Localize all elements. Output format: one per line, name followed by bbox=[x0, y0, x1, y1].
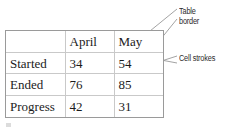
figure-canvas: April May Started 34 54 Ended 76 85 Prog… bbox=[0, 0, 234, 128]
table-row: Ended 76 85 bbox=[6, 74, 163, 96]
cell-ended-may: 85 bbox=[114, 74, 163, 96]
callout-cell-strokes: Cell strokes bbox=[179, 53, 215, 63]
callout-cell-strokes-label: Cell strokes bbox=[179, 53, 215, 63]
leader-line-table-border-top bbox=[150, 9, 177, 31]
row-label-progress: Progress bbox=[6, 96, 65, 117]
callout-table-border: Table border bbox=[179, 6, 199, 26]
table-header-row: April May bbox=[6, 31, 163, 52]
header-cell-corner bbox=[6, 31, 65, 52]
header-cell-april: April bbox=[65, 31, 114, 52]
table-figure: April May Started 34 54 Ended 76 85 Prog… bbox=[5, 30, 164, 118]
table-row: Started 34 54 bbox=[6, 52, 163, 74]
cell-progress-april: 42 bbox=[65, 96, 114, 117]
row-label-ended: Ended bbox=[6, 74, 65, 96]
cell-started-may: 54 bbox=[114, 52, 163, 74]
header-cell-may: May bbox=[114, 31, 163, 52]
data-table: April May Started 34 54 Ended 76 85 Prog… bbox=[6, 31, 163, 117]
cell-progress-may: 31 bbox=[114, 96, 163, 117]
callout-table-border-line2: border bbox=[179, 16, 199, 26]
cell-started-april: 34 bbox=[65, 52, 114, 74]
table-row: Progress 42 31 bbox=[6, 96, 163, 117]
cell-ended-april: 76 bbox=[65, 74, 114, 96]
row-label-started: Started bbox=[6, 52, 65, 74]
page-crop-artifact bbox=[6, 123, 11, 127]
callout-table-border-line1: Table bbox=[179, 6, 199, 16]
